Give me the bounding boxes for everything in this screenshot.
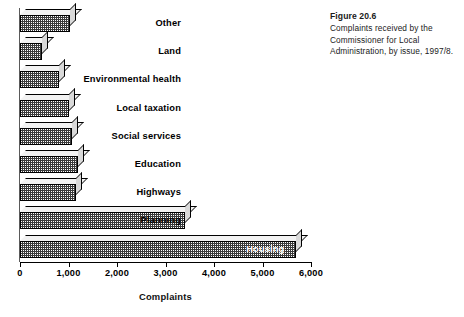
bar-label: Planning (0, 215, 181, 225)
bar-label: Housing (218, 244, 284, 254)
figure-number: Figure 20.6 (330, 11, 458, 22)
x-axis-tick (117, 262, 118, 267)
x-axis-tick-label: 3,000 (154, 268, 178, 278)
x-axis-tick-label: 6,000 (299, 268, 323, 278)
bar-label: Highways (0, 187, 181, 197)
x-axis-tick-label: 4,000 (202, 268, 226, 278)
x-axis-tick-label: 2,000 (105, 268, 129, 278)
x-axis-tick (20, 262, 21, 267)
figure-description: Complaints received by the Commissioner … (330, 23, 458, 57)
bar-label: Land (0, 46, 181, 56)
x-axis-tick (263, 262, 264, 267)
bar-label: Education (0, 159, 181, 169)
bar-label: Local taxation (0, 103, 181, 113)
bar-side-face (296, 229, 302, 252)
x-axis-tick-label: 1,000 (57, 268, 81, 278)
x-axis-tick (311, 262, 312, 267)
x-axis-tick (69, 262, 70, 267)
bar-side-face (185, 200, 191, 223)
bar-label: Environmental health (0, 74, 181, 84)
x-axis-tick (166, 262, 167, 267)
x-axis-tick-label: 0 (17, 268, 22, 278)
x-axis-tick (214, 262, 215, 267)
figure-caption: Figure 20.6 Complaints received by the C… (330, 11, 458, 58)
x-axis-tick-label: 5,000 (251, 268, 275, 278)
bar-label: Social services (0, 131, 181, 141)
bar-label: Other (0, 18, 181, 28)
bar-chart: 01,0002,0003,0004,0005,0006,000 Complain… (0, 0, 330, 317)
x-axis-title: Complaints (20, 291, 311, 302)
